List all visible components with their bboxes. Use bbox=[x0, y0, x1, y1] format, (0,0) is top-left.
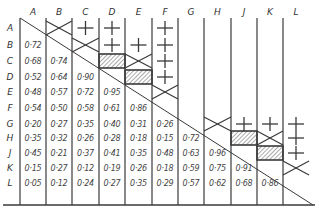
correlation-value: 0·19 bbox=[103, 164, 120, 173]
correlation-value: 0·95 bbox=[103, 88, 120, 97]
correlation-value: 0·41 bbox=[103, 149, 120, 158]
correlation-value: 0·74 bbox=[50, 57, 67, 66]
column-header: A bbox=[30, 7, 36, 17]
correlation-value: 0·58 bbox=[77, 104, 94, 113]
hatched-cell-icon bbox=[231, 131, 257, 145]
correlation-value: 0·37 bbox=[77, 149, 94, 158]
correlation-value: 0·35 bbox=[130, 149, 147, 158]
column-header: J bbox=[243, 7, 246, 17]
correlation-value: 0·72 bbox=[77, 88, 94, 97]
correlation-value: 0·45 bbox=[24, 149, 41, 158]
correlation-value: 0·20 bbox=[24, 120, 41, 129]
correlation-value: 0·29 bbox=[156, 179, 173, 188]
correlation-value: 0·35 bbox=[77, 120, 94, 129]
correlation-value: 0·12 bbox=[77, 164, 94, 173]
correlation-value: 0·26 bbox=[130, 164, 147, 173]
correlation-value: 0·72 bbox=[24, 41, 41, 50]
correlation-value: 0·28 bbox=[103, 134, 120, 143]
correlation-value: 0·18 bbox=[156, 164, 173, 173]
row-header: F bbox=[7, 103, 12, 113]
row-header: B bbox=[7, 40, 13, 50]
correlation-value: 0·96 bbox=[209, 149, 226, 158]
correlation-value: 0·57 bbox=[50, 88, 67, 97]
correlation-value: 0·50 bbox=[50, 104, 67, 113]
correlation-value: 0·32 bbox=[50, 134, 67, 143]
column-header: B bbox=[56, 7, 62, 17]
correlation-value: 0·91 bbox=[235, 164, 252, 173]
column-header: H bbox=[214, 7, 221, 17]
correlation-value: 0·63 bbox=[182, 149, 199, 158]
correlation-value: 0·40 bbox=[103, 120, 120, 129]
column-header: F bbox=[162, 7, 167, 17]
column-header: E bbox=[136, 7, 142, 17]
column-header: G bbox=[188, 7, 195, 17]
correlation-value: 0·48 bbox=[156, 149, 173, 158]
correlation-value: 0·24 bbox=[77, 179, 94, 188]
correlation-value: 0·48 bbox=[24, 88, 41, 97]
hatched-cell-icon bbox=[99, 54, 125, 68]
correlation-value: 0·15 bbox=[24, 164, 41, 173]
correlation-value: 0·35 bbox=[130, 179, 147, 188]
correlation-value: 0·68 bbox=[24, 57, 41, 66]
hatched-cell-icon bbox=[125, 70, 152, 84]
correlation-value: 0·57 bbox=[182, 179, 199, 188]
correlation-value: 0·27 bbox=[50, 164, 67, 173]
row-header: A bbox=[7, 23, 13, 33]
row-header: C bbox=[7, 56, 13, 66]
row-header: H bbox=[7, 133, 14, 143]
correlation-value: 0·64 bbox=[50, 73, 67, 82]
correlation-matrix-figure: ABCDEFGHJKLABCDEFGHJKL0·720·680·740·520·… bbox=[0, 0, 319, 215]
column-header: C bbox=[82, 7, 88, 17]
column-header: K bbox=[267, 7, 273, 17]
correlation-value: 0·68 bbox=[235, 179, 252, 188]
correlation-value: 0·18 bbox=[130, 134, 147, 143]
correlation-value: 0·15 bbox=[156, 134, 173, 143]
column-header: L bbox=[293, 7, 298, 17]
correlation-value: 0·21 bbox=[50, 149, 67, 158]
hatched-cell-icon bbox=[257, 146, 283, 160]
correlation-value: 0·27 bbox=[103, 179, 120, 188]
correlation-value: 0·05 bbox=[24, 179, 41, 188]
row-header: L bbox=[7, 178, 12, 188]
correlation-value: 0·54 bbox=[24, 104, 41, 113]
row-header: G bbox=[7, 119, 14, 129]
correlation-value: 0·90 bbox=[77, 73, 94, 82]
correlation-value: 0·61 bbox=[103, 104, 120, 113]
correlation-value: 0·86 bbox=[130, 104, 147, 113]
correlation-value: 0·26 bbox=[156, 120, 173, 129]
correlation-value: 0·12 bbox=[50, 179, 67, 188]
column-header: D bbox=[109, 7, 116, 17]
correlation-value: 0·62 bbox=[209, 179, 226, 188]
row-header: J bbox=[9, 148, 12, 158]
correlation-value: 0·59 bbox=[182, 164, 199, 173]
correlation-value: 0·26 bbox=[77, 134, 94, 143]
correlation-value: 0·72 bbox=[182, 134, 199, 143]
correlation-value: 0·27 bbox=[50, 120, 67, 129]
row-header: K bbox=[7, 163, 13, 173]
correlation-value: 0·52 bbox=[24, 73, 41, 82]
row-header: E bbox=[7, 87, 13, 97]
correlation-value: 0·75 bbox=[209, 164, 226, 173]
correlation-value: 0·35 bbox=[24, 134, 41, 143]
row-header: D bbox=[7, 72, 14, 82]
correlation-value: 0·31 bbox=[130, 120, 147, 129]
correlation-value: 0·86 bbox=[261, 179, 278, 188]
